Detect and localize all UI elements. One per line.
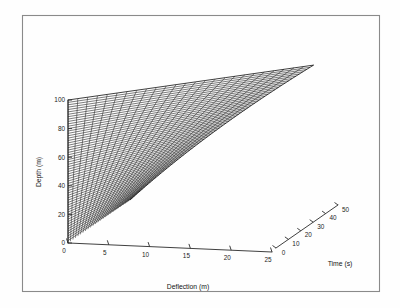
tick-label: 0 [61,239,65,246]
tick-label: 50 [342,206,350,213]
mesh-depth-rib [68,103,255,140]
tick-label: 40 [58,182,66,189]
tick-label: 20 [305,231,313,238]
tick-mark [297,228,301,231]
tick-mark [271,248,273,253]
tick-label: 20 [224,254,232,261]
mesh-plot-svg: 020406080100 0510152025 01020304050 Dept… [0,0,400,308]
tick-label: 0 [62,247,66,254]
tick-label: 80 [58,125,66,132]
depth-axis-title: Depth (m) [35,157,43,187]
tick-mark [285,237,289,240]
mesh-depth-rib [68,182,151,224]
tick-label: 15 [183,252,191,259]
tick-label: 40 [330,214,338,221]
mesh-depth-rib [68,152,187,193]
tick-label: 0 [282,249,286,256]
mesh-depth-rib [68,157,181,198]
tick-mark [189,244,191,249]
tick-label: 20 [58,211,66,218]
tick-label: 60 [58,154,66,161]
time-axis-title: Time (s) [328,260,353,268]
mesh-depth-rib [68,180,153,222]
mesh-depth-rib [68,85,282,121]
tick-mark [148,242,150,247]
figure-border [23,16,380,292]
mesh-surface [68,65,314,243]
mesh-depth-rib [68,155,184,196]
mesh-depth-rib [68,74,299,110]
deflection-axis-title: Deflection (m) [167,283,209,291]
tick-label: 25 [264,256,272,263]
tick-mark [230,246,232,251]
mesh-depth-rib [68,150,190,190]
figure-container: 020406080100 0510152025 01020304050 Dept… [0,0,400,308]
time-axis-ticks: 01020304050 [273,203,350,256]
tick-label: 10 [142,251,150,258]
tick-label: 5 [103,249,107,256]
deflection-axis-line [68,243,272,252]
tick-mark [107,240,109,245]
time-axis-line [276,205,338,248]
tick-mark [335,203,339,206]
tick-mark [273,246,277,249]
mesh-depth-rib [68,105,252,143]
tick-mark [322,211,326,214]
mesh-depth-rib [68,76,296,112]
tick-label: 10 [292,240,300,247]
tick-label: 100 [54,96,65,103]
tick-mark [310,220,314,223]
tick-label: 30 [317,223,325,230]
mesh-depth-rib [68,87,278,123]
